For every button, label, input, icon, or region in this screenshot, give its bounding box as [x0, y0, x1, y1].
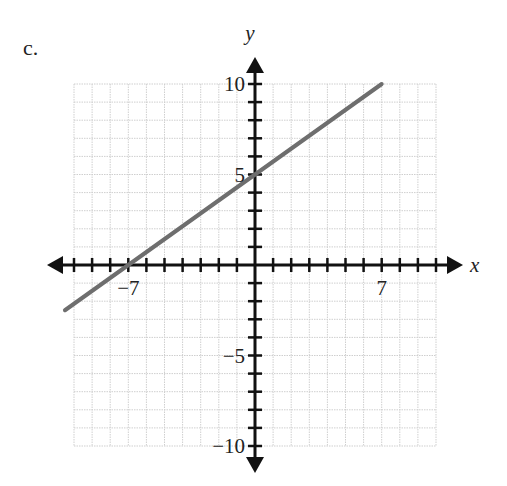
- coordinate-plane-chart: −77105−5−10xy: [0, 0, 507, 486]
- y-tick-label: 5: [235, 163, 246, 187]
- y-tick-label: −10: [212, 434, 245, 458]
- y-tick-label: −5: [223, 344, 245, 368]
- x-axis-label: x: [469, 253, 480, 277]
- x-tick-label: −7: [117, 276, 139, 300]
- data-line: [65, 84, 382, 310]
- y-axis-up-arrow-icon: [246, 57, 264, 73]
- plotted-line: [65, 84, 382, 310]
- x-axis-right-arrow-icon: [447, 256, 463, 274]
- x-axis-left-arrow-icon: [47, 256, 63, 274]
- y-axis-label: y: [243, 21, 255, 45]
- y-tick-label: 10: [224, 72, 245, 96]
- x-tick-label: 7: [376, 276, 387, 300]
- tick-labels: −77105−5−10xy: [117, 21, 480, 458]
- y-axis-down-arrow-icon: [246, 457, 264, 473]
